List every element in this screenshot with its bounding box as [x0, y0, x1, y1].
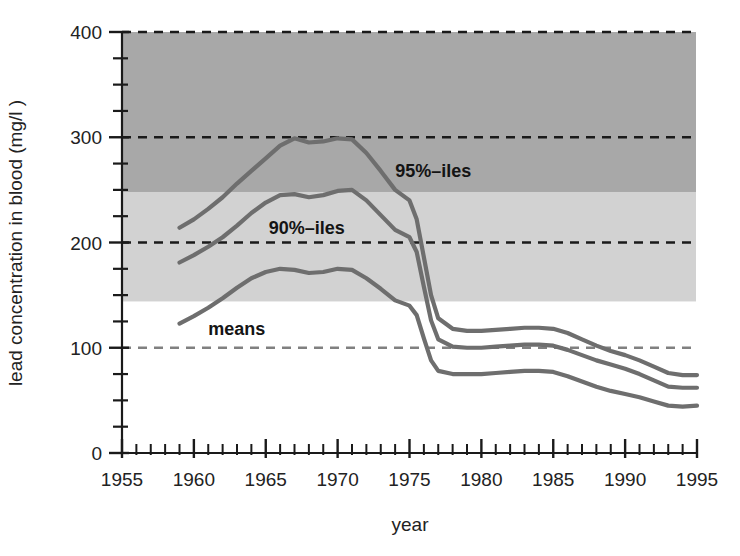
x-tick-label-1995: 1995	[676, 469, 718, 490]
y-tick-label-200: 200	[70, 233, 102, 254]
x-tick-label-1970: 1970	[316, 469, 358, 490]
y-tick-label-100: 100	[70, 338, 102, 359]
series-label-means: means	[208, 319, 265, 339]
y-tick-label-300: 300	[70, 127, 102, 148]
y-axis-title: lead concentration in blood (mg/l )	[5, 100, 26, 386]
x-tick-label-1955: 1955	[101, 469, 143, 490]
x-tick-label-1960: 1960	[173, 469, 215, 490]
series-label-95%-iles: 95%–iles	[395, 161, 471, 181]
y-tick-label-0: 0	[91, 443, 102, 464]
x-tick-label-1965: 1965	[245, 469, 287, 490]
chart-svg: 0100200300400 19551960196519701975198019…	[0, 0, 740, 556]
lead-concentration-chart: 0100200300400 19551960196519701975198019…	[0, 0, 740, 556]
series-label-90%-iles: 90%–iles	[269, 218, 345, 238]
x-axis-title: year	[392, 514, 430, 535]
x-tick-label-1980: 1980	[460, 469, 502, 490]
y-tick-label-400: 400	[70, 22, 102, 43]
x-axis-tick-labels: 195519601965197019751980198519901995	[101, 469, 718, 490]
x-tick-label-1985: 1985	[532, 469, 574, 490]
x-tick-label-1990: 1990	[604, 469, 646, 490]
x-tick-label-1975: 1975	[388, 469, 430, 490]
